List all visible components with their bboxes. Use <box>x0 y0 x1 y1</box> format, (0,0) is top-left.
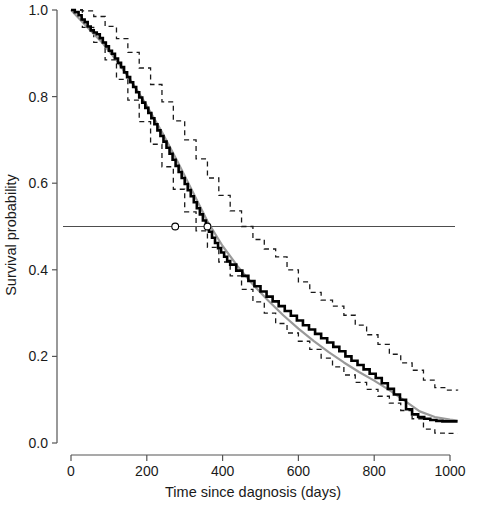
x-tick-label: 400 <box>211 463 235 479</box>
x-tick-label: 1000 <box>434 463 465 479</box>
plot-background <box>0 0 480 507</box>
x-axis-title: Time since dagnosis (days) <box>165 484 341 500</box>
median-marker-1 <box>172 223 179 230</box>
plot-canvas: 0.00.20.40.60.81.0 02004006008001000 Tim… <box>0 0 480 507</box>
x-tick-label: 0 <box>67 463 75 479</box>
y-tick-label: 0.0 <box>29 435 49 451</box>
y-tick-label: 0.4 <box>29 262 49 278</box>
y-tick-label: 0.8 <box>29 89 49 105</box>
y-tick-label: 0.2 <box>29 348 49 364</box>
median-marker-2 <box>204 223 211 230</box>
x-tick-label: 800 <box>363 463 387 479</box>
survival-plot-figure: 0.00.20.40.60.81.0 02004006008001000 Tim… <box>0 0 480 507</box>
y-tick-label: 0.6 <box>29 175 49 191</box>
y-axis-title: Survival probability <box>3 173 19 295</box>
x-tick-label: 600 <box>287 463 311 479</box>
y-tick-label: 1.0 <box>29 2 49 18</box>
x-tick-label: 200 <box>135 463 159 479</box>
